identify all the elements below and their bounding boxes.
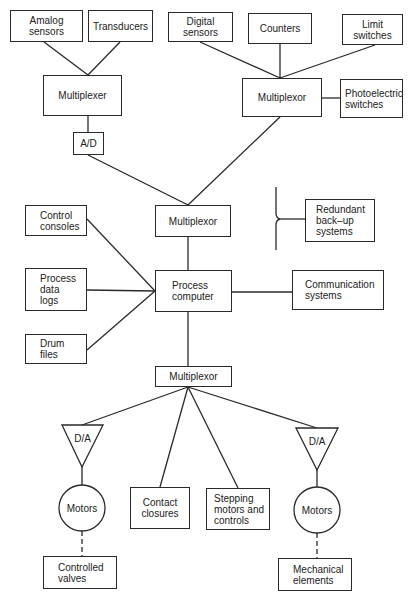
node-transducers: Transducers xyxy=(88,10,153,42)
node-multiplexer-left: Multiplexer xyxy=(43,75,122,116)
edge-analog-to-mux xyxy=(44,42,88,75)
node-label: Redundant back–up systems xyxy=(316,204,365,237)
node-label: Photoelectric switches xyxy=(345,88,403,110)
node-ad-converter: A/D xyxy=(73,132,104,155)
node-control-consoles: Control consoles xyxy=(25,205,87,236)
node-label: Contact closures xyxy=(141,497,178,519)
node-label: Control consoles xyxy=(40,210,79,232)
edge-digital-to-mux xyxy=(200,42,280,78)
node-digital-sensors: Digital sensors xyxy=(168,12,233,42)
node-redundant-backup: Redundant back–up systems xyxy=(305,199,375,242)
node-label: Transducers xyxy=(93,21,148,32)
node-counters: Counters xyxy=(248,13,312,44)
edge-limit-to-mux xyxy=(280,45,375,78)
edge-consoles-to-computer xyxy=(87,219,155,291)
edge-transducers-to-mux xyxy=(88,42,120,75)
edge-mux-to-da-right xyxy=(188,387,317,428)
node-process-data-logs: Process data logs xyxy=(25,268,87,311)
node-label: Process data logs xyxy=(40,273,76,306)
node-label: Multiplexor xyxy=(258,92,306,103)
node-stepping-motors: Stepping motors and controls xyxy=(206,488,270,530)
edge-logs-to-computer xyxy=(87,290,155,291)
node-label: Process computer xyxy=(172,280,214,302)
node-analog-sensors: Amalog sensors xyxy=(10,10,83,42)
node-drum-files: Drum files xyxy=(25,334,87,364)
da-right-label: D/A xyxy=(296,436,338,447)
node-process-computer: Process computer xyxy=(155,270,232,312)
node-multiplexor-bottom: Multiplexor xyxy=(155,366,232,387)
node-limit-switches: Limit switches xyxy=(342,14,403,45)
edge-drum-to-computer xyxy=(87,291,155,350)
motors-right-label: Motors xyxy=(294,505,340,516)
edge-right-mux-to-mid-mux xyxy=(188,117,280,205)
node-label: Amalog sensors xyxy=(29,15,64,37)
node-label: Multiplexor xyxy=(169,371,217,382)
node-label: Controlled valves xyxy=(58,562,104,584)
node-label: Multiplexor xyxy=(169,216,217,227)
node-controlled-valves: Controlled valves xyxy=(43,556,117,589)
edge-ad-to-mid-mux xyxy=(88,155,188,205)
redundant-bracket xyxy=(276,187,280,250)
node-label: Communication systems xyxy=(305,279,374,301)
node-multiplexor-right: Multiplexor xyxy=(242,78,322,117)
node-label: Drum files xyxy=(40,338,64,360)
node-contact-closures: Contact closures xyxy=(130,487,190,529)
node-photoelectric-switches: Photoelectric switches xyxy=(340,79,403,118)
node-label: Multiplexer xyxy=(58,90,106,101)
node-communication-systems: Communication systems xyxy=(292,270,384,310)
edge-mux-to-da-left xyxy=(82,387,188,425)
edge-mux-to-stepping xyxy=(188,387,238,488)
node-label: A/D xyxy=(80,138,97,149)
node-label: Counters xyxy=(260,23,301,34)
node-label: Mechanical elements xyxy=(293,564,344,586)
node-multiplexor-middle: Multiplexor xyxy=(155,205,231,237)
da-left-label: D/A xyxy=(62,433,103,444)
da-left-triangle xyxy=(62,425,103,467)
edge-mux-to-contact xyxy=(160,387,188,487)
node-label: Stepping motors and controls xyxy=(214,493,264,526)
da-right-triangle xyxy=(296,428,338,470)
node-label: Limit switches xyxy=(353,19,391,41)
motors-left-label: Motors xyxy=(59,503,105,514)
node-mechanical-elements: Mechanical elements xyxy=(278,558,352,591)
node-label: Digital sensors xyxy=(183,16,218,38)
